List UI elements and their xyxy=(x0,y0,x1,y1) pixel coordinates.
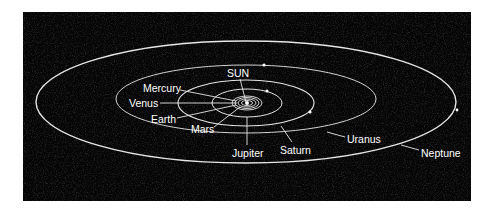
label-mercury: Mercury xyxy=(143,82,182,94)
label-saturn: Saturn xyxy=(280,144,311,156)
label-mars: Mars xyxy=(191,123,214,135)
label-earth: Earth xyxy=(151,113,176,125)
planet-dot-uranus xyxy=(262,63,265,66)
planet-dot-saturn xyxy=(308,110,311,113)
label-venus: Venus xyxy=(129,97,158,109)
planet-dot-neptune xyxy=(456,109,459,112)
label-jupiter: Jupiter xyxy=(232,147,264,159)
label-neptune: Neptune xyxy=(421,147,461,159)
planet-dot-jupiter xyxy=(266,90,269,93)
label-uranus: Uranus xyxy=(347,133,381,145)
label-sun: SUN xyxy=(227,67,249,79)
solar-system-diagram: SUN Mercury Venus Earth Mars Jupiter Sat… xyxy=(0,0,492,211)
